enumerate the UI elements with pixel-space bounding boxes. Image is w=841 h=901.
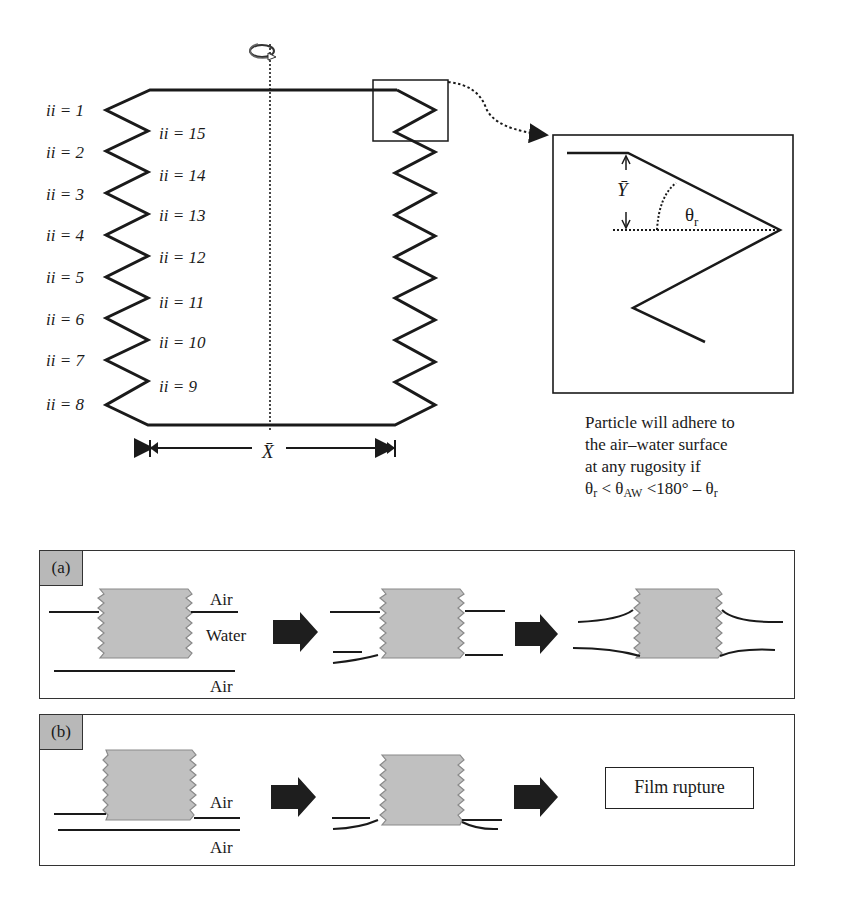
caption-line: Particle will adhere to <box>585 412 835 434</box>
panel-b: (b) Film rupture <box>39 714 795 866</box>
ring-label: ii = 6 <box>46 310 84 329</box>
panel-b-tag: (b) <box>40 715 83 750</box>
condition-formula: θr < θAW <180° – θr <box>585 478 835 504</box>
ring-label: ii = 11 <box>159 293 204 312</box>
ring-label: ii = 14 <box>159 166 206 185</box>
ring-label: ii = 8 <box>46 395 84 414</box>
zoom-inset-box <box>553 135 793 393</box>
ring-label: ii = 7 <box>46 351 85 370</box>
ring-label: ii = 1 <box>46 101 84 120</box>
caption-line: at any rugosity if <box>585 456 835 478</box>
panel-a-tag: (a) <box>40 551 83 586</box>
x-bar-label: X̄ <box>261 441 275 462</box>
ring-label: ii = 2 <box>46 143 84 162</box>
ring-label: ii = 4 <box>46 226 84 245</box>
film-rupture-box: Film rupture <box>605 767 754 809</box>
caption-line: the air–water surface <box>585 434 835 456</box>
ring-label: ii = 5 <box>46 268 84 287</box>
inner-ring-labels: ii = 15 ii = 14 ii = 13 ii = 12 ii = 11 … <box>159 124 206 396</box>
left-ring-labels: ii = 1 ii = 2 ii = 3 ii = 4 ii = 5 ii = … <box>46 101 85 414</box>
ring-label: ii = 15 <box>159 124 205 143</box>
adhesion-condition-caption: Particle will adhere to the air–water su… <box>585 412 835 504</box>
rotation-arrow-icon <box>250 44 276 60</box>
panel-a: (a) <box>39 550 795 699</box>
ring-label: ii = 10 <box>159 333 206 352</box>
ring-label: ii = 12 <box>159 248 206 267</box>
ring-label: ii = 9 <box>159 377 197 396</box>
magnifier-connector <box>448 82 547 135</box>
ring-label: ii = 13 <box>159 206 205 225</box>
ring-label: ii = 3 <box>46 185 84 204</box>
